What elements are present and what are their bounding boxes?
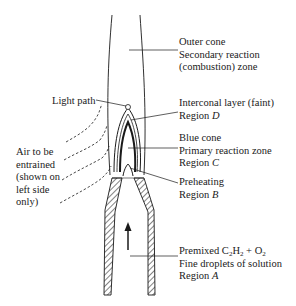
outer-cone-desc-2: (combustion) zone	[179, 61, 260, 74]
blue-cone-desc: Primary reaction zone	[179, 145, 272, 158]
blue-cone-label: Blue cone Primary reaction zone Region C	[179, 132, 272, 170]
outer-cone	[108, 15, 112, 175]
interconal-title: Interconal layer (faint)	[179, 97, 274, 110]
air-entrained-label: Air to be entrained (shown on left side …	[16, 146, 76, 209]
preheating-region: Region B	[179, 189, 224, 202]
light-path-label: Light path	[52, 95, 95, 108]
premixed-formula: Premixed C2H2 + O2	[179, 245, 282, 258]
outer-cone-desc: Secondary reaction	[179, 49, 260, 62]
preheating-label: Preheating Region B	[179, 176, 224, 201]
premixed-label: Premixed C2H2 + O2 Fine droplets of solu…	[179, 245, 282, 283]
premixed-region: Region A	[179, 270, 282, 283]
preheating-title: Preheating	[179, 176, 224, 189]
burner-wall-left	[104, 178, 122, 295]
interconal-label: Interconal layer (faint) Region D	[179, 97, 274, 122]
interconal-region: Region D	[179, 110, 274, 123]
premixed-desc: Fine droplets of solution	[179, 258, 282, 271]
burner-wall-right	[134, 178, 155, 295]
blue-cone-region: Region C	[179, 157, 272, 170]
outer-cone-label: Outer cone Secondary reaction (combustio…	[179, 36, 260, 74]
preheating-cone	[123, 164, 133, 176]
outer-cone-title: Outer cone	[179, 36, 260, 49]
light-path-marker	[126, 105, 131, 110]
blue-cone-title: Blue cone	[179, 132, 272, 145]
